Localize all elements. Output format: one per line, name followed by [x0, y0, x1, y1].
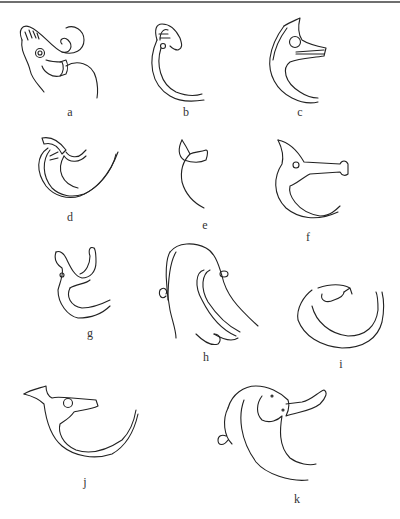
panel-label-k: k	[294, 493, 300, 505]
panel-label-a: a	[67, 106, 72, 118]
panel-label-b: b	[183, 106, 189, 118]
panel-label-e: e	[202, 219, 207, 231]
drawing-e	[179, 140, 207, 208]
drawing-c	[270, 18, 326, 103]
drawing-i	[298, 285, 384, 348]
panel-label-c: c	[297, 106, 302, 118]
panel-label-d: d	[67, 211, 73, 223]
panel-label-h: h	[203, 351, 209, 363]
panel-label-j: j	[83, 476, 86, 488]
drawing-b	[152, 24, 204, 101]
drawing-k	[218, 386, 326, 480]
drawing-f	[276, 140, 348, 218]
line-drawings	[0, 0, 400, 519]
drawing-d	[39, 138, 118, 198]
panel-label-f: f	[306, 231, 310, 243]
panel-label-g: g	[87, 327, 93, 339]
drawing-g	[55, 247, 110, 318]
drawing-a	[20, 26, 97, 98]
drawing-h	[159, 244, 258, 345]
drawing-j	[24, 386, 138, 457]
panel-label-i: i	[339, 358, 342, 370]
